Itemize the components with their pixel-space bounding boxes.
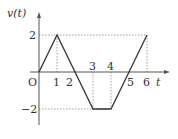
- y-tick-neg2: −2: [21, 103, 37, 116]
- x-axis-label: t: [156, 76, 161, 89]
- x-tick-1: 1: [53, 76, 60, 89]
- x-tick-5: 5: [127, 76, 134, 89]
- x-axis-arrow-icon: [164, 70, 170, 74]
- x-tick-4: 4: [107, 60, 114, 73]
- y-axis-arrow-icon: [37, 12, 41, 18]
- x-tick-2: 2: [66, 76, 73, 89]
- velocity-time-graph: v(t) t O 2 −2 1 2 3 4 5 6: [0, 0, 178, 139]
- y-axis-label: v(t): [7, 7, 26, 20]
- x-tick-6: 6: [143, 76, 150, 89]
- x-tick-3: 3: [89, 60, 96, 73]
- y-tick-2: 2: [29, 29, 36, 42]
- origin-label: O: [28, 76, 37, 89]
